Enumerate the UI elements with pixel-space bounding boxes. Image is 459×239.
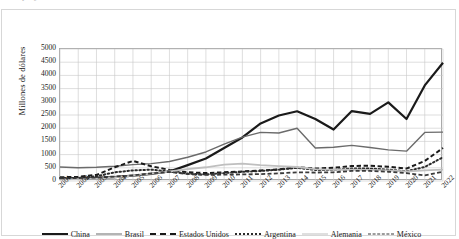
- legend-item[interactable]: Estados Unidos: [150, 230, 229, 239]
- chart-legend: ChinaBrasilEstados UnidosArgentinaAleman…: [2, 224, 459, 239]
- legend-swatch-icon: [368, 230, 394, 238]
- legend-label: Argentina: [264, 230, 296, 239]
- x-axis-ticks: 2001200220032004200520062007200820092010…: [2, 182, 459, 220]
- legend-label: China: [71, 230, 90, 239]
- legend-label: Estados Unidos: [179, 230, 229, 239]
- legend-swatch-icon: [150, 230, 176, 238]
- y-axis-tick-label: 1500: [22, 136, 56, 144]
- plot-area: [59, 48, 442, 180]
- legend-item[interactable]: Alemania: [302, 230, 362, 239]
- y-axis-tick-label: 2000: [22, 123, 56, 131]
- legend-swatch-icon: [96, 230, 122, 238]
- series-line: [60, 63, 443, 179]
- chart-figure: proyectado Millones de dólares 050010001…: [0, 0, 459, 239]
- legend-swatch-icon: [235, 230, 261, 238]
- grid-lines: [60, 49, 443, 181]
- legend-swatch-icon: [302, 230, 328, 238]
- legend-item[interactable]: México: [368, 230, 421, 239]
- legend-swatch-icon: [42, 230, 68, 238]
- legend-label: Brasil: [125, 230, 144, 239]
- top-partial-text: proyectado: [0, 0, 459, 9]
- y-axis-tick-label: 3500: [22, 84, 56, 92]
- y-axis-tick-label: 4000: [22, 70, 56, 78]
- series-canvas: [60, 49, 443, 181]
- legend-item[interactable]: Argentina: [235, 230, 296, 239]
- y-axis-tick-label: 2500: [22, 110, 56, 118]
- series-line: [60, 128, 443, 168]
- legend-item[interactable]: Brasil: [96, 230, 144, 239]
- chart-frame: Millones de dólares 05001000150020002500…: [1, 9, 456, 236]
- y-axis-tick-label: 4500: [22, 57, 56, 65]
- y-axis-tick-label: 5000: [22, 44, 56, 52]
- y-axis-tick-label: 3000: [22, 97, 56, 105]
- legend-label: México: [397, 230, 421, 239]
- y-axis-tick-label: 500: [22, 163, 56, 171]
- legend-label: Alemania: [331, 230, 362, 239]
- y-axis-tick-label: 1000: [22, 150, 56, 158]
- legend-item[interactable]: China: [42, 230, 90, 239]
